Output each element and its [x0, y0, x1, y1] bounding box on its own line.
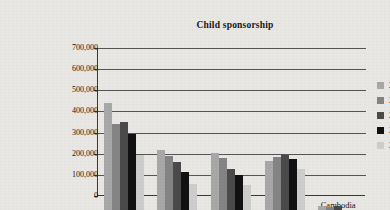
- gridline: [98, 69, 366, 70]
- bar: [211, 153, 219, 210]
- bar: [112, 124, 120, 210]
- legend-swatch-icon: [377, 112, 384, 119]
- legend-item-2013[interactable]: 2013: [377, 123, 390, 138]
- chart-title: Child sponsorship: [40, 20, 390, 30]
- bar: [227, 169, 235, 210]
- legend-swatch-icon: [377, 97, 384, 104]
- y-axis-tick-label: 400,000: [44, 107, 98, 115]
- bar: [189, 184, 197, 210]
- bar: [136, 155, 144, 210]
- bar: [120, 122, 128, 210]
- bar: [235, 175, 243, 210]
- bar: [297, 169, 305, 210]
- legend-item-2010[interactable]: 2010: [377, 78, 390, 93]
- bar-group: [311, 78, 365, 210]
- y-axis-tick-label: 700,000: [44, 44, 98, 52]
- legend-item-2012[interactable]: 2012: [377, 108, 390, 123]
- bar: [128, 134, 136, 210]
- y-axis-tick-label: 500,000: [44, 86, 98, 94]
- bar: [281, 155, 289, 210]
- gridline: [98, 48, 366, 49]
- bar: [273, 157, 281, 210]
- legend-swatch-icon: [377, 127, 384, 134]
- y-axis-tick-label: 100,000: [44, 171, 98, 179]
- bar: [219, 158, 227, 210]
- bar-group: [258, 78, 312, 210]
- chart-legend: 20102011201220132014: [377, 78, 390, 153]
- bar: [243, 185, 251, 210]
- legend-swatch-icon: [377, 82, 384, 89]
- y-axis-tick-label: 0: [44, 192, 98, 200]
- bar-group: [97, 78, 151, 210]
- bar: [318, 206, 326, 210]
- legend-swatch-icon: [377, 142, 384, 149]
- bar: [181, 172, 189, 210]
- bar: [157, 150, 165, 210]
- y-axis-tick-label: 200,000: [44, 150, 98, 158]
- bar: [334, 206, 342, 210]
- bar: [265, 161, 273, 210]
- child-sponsorship-bar-chart: Child sponsorship 700,000600,000500,0004…: [40, 16, 390, 210]
- bar-group: [204, 78, 258, 210]
- bar: [289, 159, 297, 210]
- bar: [165, 156, 173, 210]
- bar: [173, 162, 181, 210]
- bar: [104, 103, 112, 210]
- bar-group: [151, 78, 205, 210]
- legend-item-2011[interactable]: 2011: [377, 93, 390, 108]
- bar: [326, 207, 334, 210]
- y-axis-tick-label: 300,000: [44, 129, 98, 137]
- y-axis-tick-label: 600,000: [44, 65, 98, 73]
- legend-item-2014[interactable]: 2014: [377, 138, 390, 153]
